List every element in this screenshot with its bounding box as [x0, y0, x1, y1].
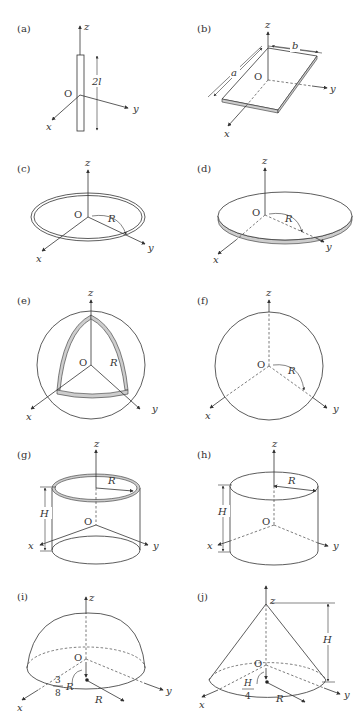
origin-label: O — [79, 357, 87, 368]
panel-f: (f) z y x O R — [197, 287, 339, 421]
panel-label: (c) — [17, 163, 31, 174]
x-axis-label: x — [224, 128, 230, 139]
frac-numerator: H — [243, 678, 252, 688]
y-axis-label: y — [152, 540, 159, 551]
rod — [77, 55, 84, 131]
origin-label: O — [74, 652, 82, 663]
x-axis-label: x — [199, 699, 205, 710]
x-axis — [22, 690, 38, 700]
x-axis — [42, 217, 88, 251]
panel-b: (b) z y x O a b — [197, 19, 336, 139]
y-axis-label: y — [165, 685, 172, 696]
panel-label: (f) — [197, 295, 209, 306]
x-axis — [218, 240, 236, 254]
origin-label: O — [254, 71, 262, 82]
z-axis-label: z — [269, 595, 276, 606]
y-axis-label: y — [147, 242, 154, 253]
y-axis-hidden — [274, 525, 318, 543]
x-axis-label: x — [36, 253, 42, 264]
x-axis-label: x — [28, 540, 34, 551]
radius-arrow — [268, 683, 305, 702]
panel-j: (j) z y x O R H 4 H — [197, 586, 350, 710]
y-axis-label: y — [343, 689, 350, 700]
b-label: b — [292, 40, 298, 51]
shell-left-edge — [57, 315, 91, 390]
x-axis-label: x — [213, 254, 219, 265]
panel-label: (j) — [197, 591, 208, 602]
x-axis-label: x — [46, 121, 52, 132]
height-label: H — [39, 508, 49, 519]
panel-label: (h) — [197, 449, 211, 460]
origin-label: O — [74, 209, 82, 220]
shell-bottom-edge — [57, 390, 128, 398]
panel-label: (g) — [17, 449, 31, 460]
x-axis — [202, 690, 218, 697]
origin-label: O — [262, 516, 270, 527]
origin-label: O — [257, 359, 265, 370]
y-axis-label: y — [325, 241, 332, 252]
origin-label: O — [64, 88, 72, 99]
panel-label: (b) — [197, 23, 211, 34]
z-axis-label: z — [87, 287, 94, 298]
x-axis-label: x — [26, 411, 32, 422]
y-axis — [318, 543, 328, 546]
a-label: a — [231, 67, 237, 78]
frac-denominator: 4 — [245, 691, 251, 701]
y-axis-label: y — [132, 103, 139, 114]
panel-label: (e) — [17, 295, 31, 306]
panel-g: (g) z R y x O H — [17, 438, 159, 564]
z-axis-label: z — [93, 438, 100, 449]
cone-base-back — [209, 663, 326, 680]
x-axis-label: x — [17, 702, 23, 713]
panel-label: (d) — [197, 163, 211, 174]
z-axis-label: z — [261, 155, 268, 166]
radius-label: R — [109, 357, 118, 368]
panel-h: (h) z R y x O H — [197, 438, 339, 565]
z-axis-label: z — [83, 21, 90, 32]
x-axis-label: x — [205, 410, 211, 421]
y-axis — [80, 95, 128, 108]
cylinder-bottom-front — [230, 551, 318, 565]
frac-variable: R — [65, 681, 74, 692]
cylinder-bottom — [52, 536, 140, 564]
panel-d: (d) z y x O R — [197, 155, 352, 265]
radius-label: R — [287, 475, 296, 486]
x-axis-hidden — [38, 659, 86, 690]
y-axis-label: y — [332, 403, 339, 414]
origin-label: O — [254, 658, 262, 669]
y-axis — [91, 365, 140, 409]
origin-label: O — [84, 516, 92, 527]
panel-e: (e) z y x O R — [17, 287, 158, 422]
z-axis-label: z — [88, 592, 95, 603]
z-axis-label: z — [264, 19, 271, 30]
z-axis-label: z — [265, 287, 272, 298]
radius-label: R — [287, 365, 296, 376]
shell-right-edge — [91, 315, 128, 390]
panel-c: (c) z y x O R — [17, 157, 154, 264]
y-axis-label: y — [332, 540, 339, 551]
y-axis-hidden — [266, 665, 324, 688]
x-axis — [228, 106, 246, 126]
x-axis — [210, 397, 225, 408]
radius-label: R — [107, 213, 116, 224]
z-axis-label: z — [84, 157, 91, 168]
frac-denominator: 8 — [55, 688, 61, 698]
z-axis-label: z — [271, 438, 278, 449]
radius-arrow — [88, 681, 124, 701]
radius-label: R — [275, 693, 284, 704]
y-axis — [144, 683, 163, 690]
height-label: H — [217, 506, 227, 517]
y-axis — [324, 688, 340, 694]
panel-label: (i) — [17, 591, 28, 602]
y-axis-label: y — [329, 83, 336, 94]
radius-label: R — [284, 213, 293, 224]
y-axis-label: y — [151, 403, 158, 414]
panel-a: (a) z y x O 2l — [17, 21, 139, 132]
radius-label: R — [94, 694, 103, 705]
com-leader — [257, 672, 264, 684]
panel-i: (i) z y x O R 3 8 R — [17, 591, 172, 713]
radius-label: R — [107, 475, 116, 486]
y-axis — [312, 397, 327, 408]
diagram-canvas: (a) z y x O 2l (b) z y x O a b — [0, 0, 361, 721]
x-axis-hidden — [230, 525, 274, 541]
